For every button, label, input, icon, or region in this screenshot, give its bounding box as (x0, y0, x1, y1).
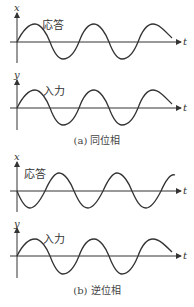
axis-label-y: y (13, 218, 20, 229)
axis-label-t: t (183, 36, 188, 47)
caption-b: (b) 逆位相 (73, 284, 120, 296)
axis-label-x: x (14, 151, 20, 162)
axis-label-t: t (183, 102, 188, 113)
phase-diagram: x t 応答 y t 入力 (a) 同位相 x t 応答 y t 入力 (b) … (0, 0, 194, 307)
wave-label: 入力 (43, 85, 65, 98)
wave-label: 入力 (43, 233, 65, 246)
plot-b-input: y t 入力 (10, 218, 188, 278)
axis-label-y: y (13, 69, 20, 80)
caption-a: (a) 同位相 (74, 134, 121, 146)
plot-a-input: y t 入力 (10, 69, 188, 130)
axis-label-t: t (183, 185, 188, 196)
axis-label-t: t (183, 250, 188, 261)
axis-label-x: x (14, 2, 20, 13)
wave-label: 応答 (42, 18, 64, 32)
wave-label: 応答 (24, 167, 46, 181)
plot-a-response: x t 応答 (10, 2, 188, 63)
plot-b-response: x t 応答 (10, 151, 188, 212)
